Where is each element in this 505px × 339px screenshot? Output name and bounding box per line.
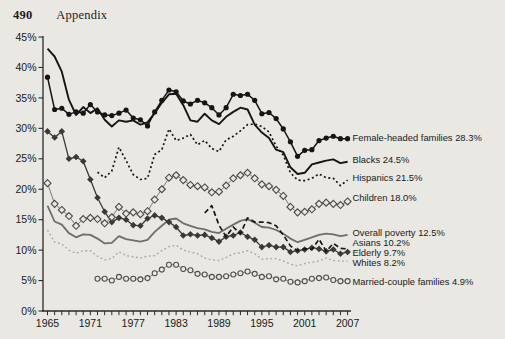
marker-elderly <box>66 156 73 163</box>
marker-children <box>137 211 144 218</box>
marker-children <box>94 216 101 223</box>
marker-female_headed <box>81 111 86 116</box>
y-tick-label: 30% <box>15 122 36 134</box>
marker-female_headed <box>302 148 307 153</box>
marker-elderly <box>230 232 237 239</box>
marker-elderly <box>73 154 80 161</box>
marker-married <box>317 276 322 281</box>
marker-married <box>145 276 150 281</box>
marker-married <box>252 271 257 276</box>
marker-female_headed <box>324 136 329 141</box>
book-page: 490Appendix 0%5%10%15%20%25%30%35%40%45%… <box>0 0 505 339</box>
marker-married <box>166 262 171 267</box>
marker-elderly <box>266 242 273 249</box>
marker-married <box>174 262 179 267</box>
marker-children <box>301 208 308 215</box>
marker-female_headed <box>45 75 50 80</box>
y-tick-label: 10% <box>15 244 36 256</box>
marker-married <box>188 268 193 273</box>
marker-female_headed <box>138 117 143 122</box>
marker-female_headed <box>345 136 350 141</box>
marker-female_headed <box>88 102 93 107</box>
marker-children <box>158 186 165 193</box>
marker-female_headed <box>331 134 336 139</box>
marker-children <box>180 177 187 184</box>
marker-female_headed <box>181 98 186 103</box>
marker-female_headed <box>116 111 121 116</box>
marker-married <box>109 278 114 283</box>
marker-married <box>245 269 250 274</box>
marker-female_headed <box>195 98 200 103</box>
marker-elderly <box>273 244 280 251</box>
marker-married <box>124 276 129 281</box>
series-label-blacks: Blacks 24.5% <box>353 154 410 165</box>
marker-female_headed <box>159 98 164 103</box>
marker-female_headed <box>152 109 157 114</box>
marker-elderly <box>159 215 166 222</box>
marker-female_headed <box>73 109 78 114</box>
marker-female_headed <box>188 101 193 106</box>
marker-female_headed <box>95 109 100 114</box>
marker-children <box>265 183 272 190</box>
y-tick-label: 5% <box>21 274 36 286</box>
x-tick-label: 1965 <box>36 317 60 329</box>
marker-elderly <box>316 246 323 253</box>
marker-female_headed <box>216 112 221 117</box>
marker-married <box>345 279 350 284</box>
marker-female_headed <box>166 87 171 92</box>
marker-female_headed <box>288 139 293 144</box>
marker-female_headed <box>252 98 257 103</box>
marker-children <box>330 200 337 207</box>
marker-married <box>224 274 229 279</box>
marker-female_headed <box>52 107 57 112</box>
y-tick-label: 45% <box>15 31 36 43</box>
poverty-rates-line-chart: 0%5%10%15%20%25%30%35%40%45%196519711977… <box>0 0 505 339</box>
x-tick-label: 1983 <box>164 317 188 329</box>
marker-female_headed <box>59 106 64 111</box>
y-tick-label: 0% <box>21 305 36 317</box>
marker-married <box>238 271 243 276</box>
marker-female_headed <box>123 107 128 112</box>
marker-female_headed <box>174 89 179 94</box>
marker-children <box>44 180 51 187</box>
marker-married <box>231 272 236 277</box>
marker-married <box>202 272 207 277</box>
marker-elderly <box>151 212 158 219</box>
marker-female_headed <box>274 116 279 121</box>
marker-female_headed <box>202 100 207 105</box>
marker-children <box>130 209 137 216</box>
marker-children <box>237 172 244 179</box>
marker-children <box>173 172 180 179</box>
marker-married <box>338 279 343 284</box>
marker-married <box>181 266 186 271</box>
marker-female_headed <box>209 105 214 110</box>
marker-children <box>201 184 208 191</box>
marker-elderly <box>194 232 201 239</box>
marker-children <box>194 183 201 190</box>
marker-children <box>187 181 194 188</box>
marker-children <box>144 208 151 215</box>
series-label-whites: Whites 8.2% <box>353 257 406 268</box>
x-tick-label: 1977 <box>122 317 146 329</box>
marker-married <box>209 274 214 279</box>
marker-children <box>151 196 158 203</box>
marker-children <box>323 199 330 206</box>
marker-married <box>266 274 271 279</box>
marker-children <box>165 174 172 181</box>
marker-elderly <box>344 249 351 256</box>
marker-married <box>309 276 314 281</box>
series-label-female_headed: Female-headed families 28.3% <box>353 132 482 143</box>
marker-children <box>87 214 94 221</box>
y-tick-label: 35% <box>15 92 36 104</box>
marker-female_headed <box>102 112 107 117</box>
marker-married <box>302 279 307 284</box>
marker-married <box>102 276 107 281</box>
series-label-hispanics: Hispanics 21.5% <box>353 172 423 183</box>
marker-elderly <box>187 231 194 238</box>
x-tick-label: 1995 <box>250 317 274 329</box>
marker-elderly <box>94 194 101 201</box>
marker-married <box>138 277 143 282</box>
marker-married <box>216 274 221 279</box>
series-line-hispanics <box>98 124 348 186</box>
marker-female_headed <box>145 123 150 128</box>
